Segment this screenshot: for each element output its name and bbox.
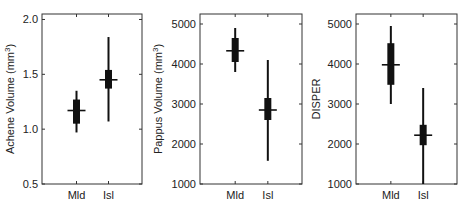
boxplot-figure: 0.51.01.52.0 MldIsl Achene Volume (mm3) … [0, 0, 466, 206]
y-tick-label: 0.5 [23, 178, 38, 190]
box-isl [264, 98, 271, 120]
x-tick-label-isl: Isl [262, 189, 273, 201]
y-tick-label: 3000 [328, 98, 352, 110]
y-tick-label: 2.0 [23, 13, 38, 25]
y-tick-label: 2000 [328, 138, 352, 150]
y-axis-label: DISPER [310, 78, 322, 119]
panel-achene-volume: 0.51.01.52.0 MldIsl Achene Volume (mm3) [3, 13, 142, 201]
x-tick-label-isl: Isl [103, 189, 114, 201]
y-tick-label: 1.0 [23, 123, 38, 135]
box-mld [73, 100, 80, 124]
plot-frame [200, 14, 302, 184]
figure: 0.51.01.52.0 MldIsl Achene Volume (mm3) … [0, 0, 466, 206]
y-axis-label: Pappus Volume (mm3) [151, 44, 164, 154]
y-tick-label: 5000 [172, 18, 196, 30]
y-tick-label: 1000 [328, 178, 352, 190]
plot-frame [356, 14, 457, 184]
x-axis-ticks: MldIsl [382, 14, 429, 201]
y-tick-label: 5000 [328, 18, 352, 30]
panel-disper: 10002000300040005000 MldIsl DISPER [310, 14, 457, 201]
x-tick-label-mld: Mld [68, 189, 86, 201]
box-series [68, 37, 118, 132]
x-tick-label-mld: Mld [226, 189, 244, 201]
x-tick-label-mld: Mld [382, 189, 400, 201]
y-tick-label: 1.5 [23, 68, 38, 80]
y-axis-ticks: 0.51.01.52.0 [23, 13, 142, 190]
box-series [226, 28, 277, 161]
y-tick-label: 1000 [172, 178, 196, 190]
x-tick-label-isl: Isl [418, 189, 429, 201]
panel-pappus-volume: 10002000300040005000 MldIsl Pappus Volum… [151, 14, 302, 201]
y-tick-label: 3000 [172, 98, 196, 110]
y-tick-label: 2000 [172, 138, 196, 150]
y-tick-label: 4000 [328, 58, 352, 70]
y-tick-label: 4000 [172, 58, 196, 70]
y-axis-label: Achene Volume (mm3) [3, 44, 16, 154]
box-series [382, 26, 432, 184]
plot-frame [42, 14, 142, 184]
